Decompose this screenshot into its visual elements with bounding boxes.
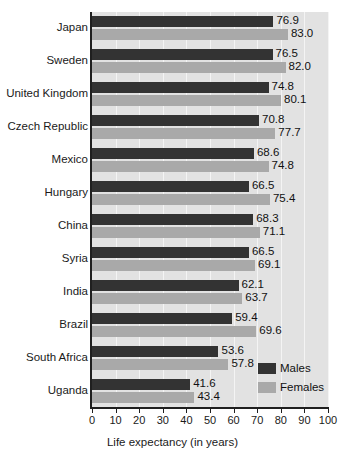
- bar-value-males: 41.6: [193, 377, 215, 390]
- bar-females: [92, 359, 228, 370]
- bar-value-females: 82.0: [289, 60, 311, 73]
- bar-row: Mexico68.674.8: [0, 144, 345, 177]
- bar-row: United Kingdom74.880.1: [0, 78, 345, 111]
- bar-row: India62.163.7: [0, 276, 345, 309]
- bar-females: [92, 128, 275, 139]
- x-tick-label: 100: [313, 414, 343, 427]
- legend-label: Males: [280, 361, 311, 376]
- bar-value-females: 57.8: [231, 357, 253, 370]
- x-tick-mark: [92, 409, 93, 413]
- category-label: Uganda: [48, 383, 88, 398]
- category-label: India: [63, 284, 88, 299]
- legend-swatch: [258, 382, 276, 393]
- bar-males: [92, 247, 249, 258]
- bar-row: Czech Republic70.877.7: [0, 111, 345, 144]
- bar-males: [92, 82, 269, 93]
- x-tick-mark: [234, 409, 235, 413]
- bar-value-females: 69.6: [259, 324, 281, 337]
- category-label: Mexico: [52, 152, 88, 167]
- bar-value-males: 66.5: [252, 245, 274, 258]
- bar-males: [92, 214, 253, 225]
- category-label: Brazil: [59, 317, 88, 332]
- x-tick-mark: [163, 409, 164, 413]
- x-tick-mark: [257, 409, 258, 413]
- bar-value-males: 74.8: [272, 80, 294, 93]
- category-label: Hungary: [45, 185, 88, 200]
- bar-value-males: 76.9: [276, 14, 298, 27]
- bar-females: [92, 392, 194, 403]
- x-tick-mark: [116, 409, 117, 413]
- legend-swatch: [258, 363, 276, 374]
- bar-value-females: 63.7: [245, 291, 267, 304]
- bar-females: [92, 62, 286, 73]
- bar-value-females: 77.7: [278, 126, 300, 139]
- x-tick-mark: [210, 409, 211, 413]
- bar-females: [92, 227, 260, 238]
- bar-males: [92, 313, 232, 324]
- category-label: Syria: [62, 251, 88, 266]
- bar-value-females: 69.1: [258, 258, 280, 271]
- category-label: United Kingdom: [6, 86, 88, 101]
- bar-females: [92, 95, 281, 106]
- bar-value-males: 59.4: [235, 311, 257, 324]
- bar-value-males: 68.3: [256, 212, 278, 225]
- bar-males: [92, 49, 273, 60]
- bar-row: Syria66.569.1: [0, 243, 345, 276]
- chart-legend: MalesFemales: [258, 360, 336, 398]
- legend-item: Females: [258, 379, 336, 396]
- bar-males: [92, 148, 254, 159]
- life-expectancy-bar-chart: 0102030405060708090100 Japan76.983.0Swed…: [0, 0, 345, 463]
- bar-females: [92, 161, 269, 172]
- bar-females: [92, 326, 256, 337]
- bar-males: [92, 16, 273, 27]
- x-tick-mark: [186, 409, 187, 413]
- category-label: Sweden: [46, 53, 88, 68]
- bar-row: Japan76.983.0: [0, 12, 345, 45]
- legend-item: Males: [258, 360, 336, 377]
- bar-females: [92, 260, 255, 271]
- bar-row: Sweden76.582.0: [0, 45, 345, 78]
- bar-females: [92, 293, 242, 304]
- bar-value-females: 43.4: [197, 390, 219, 403]
- bar-males: [92, 280, 239, 291]
- bar-females: [92, 29, 288, 40]
- x-axis-title: Life expectancy (in years): [0, 436, 345, 448]
- x-tick-mark: [328, 409, 329, 413]
- bar-row: Brazil59.469.6: [0, 309, 345, 342]
- category-label: China: [58, 218, 88, 233]
- category-label: South Africa: [26, 350, 88, 365]
- bar-value-females: 74.8: [272, 159, 294, 172]
- bar-value-males: 62.1: [242, 278, 264, 291]
- bar-females: [92, 194, 270, 205]
- legend-label: Females: [280, 380, 324, 395]
- bar-value-males: 76.5: [276, 47, 298, 60]
- category-label: Japan: [57, 20, 88, 35]
- bar-males: [92, 115, 259, 126]
- bar-value-males: 68.6: [257, 146, 279, 159]
- x-tick-mark: [139, 409, 140, 413]
- bar-value-females: 83.0: [291, 27, 313, 40]
- x-tick-mark: [304, 409, 305, 413]
- x-tick-mark: [281, 409, 282, 413]
- bar-males: [92, 181, 249, 192]
- bar-row: Hungary66.575.4: [0, 177, 345, 210]
- category-label: Czech Republic: [7, 119, 88, 134]
- bar-value-females: 75.4: [273, 192, 295, 205]
- bar-value-males: 53.6: [221, 344, 243, 357]
- bar-value-females: 71.1: [263, 225, 285, 238]
- bar-row: China68.371.1: [0, 210, 345, 243]
- bar-males: [92, 379, 190, 390]
- bar-value-males: 66.5: [252, 179, 274, 192]
- bar-value-females: 80.1: [284, 93, 306, 106]
- bar-value-males: 70.8: [262, 113, 284, 126]
- bar-males: [92, 346, 218, 357]
